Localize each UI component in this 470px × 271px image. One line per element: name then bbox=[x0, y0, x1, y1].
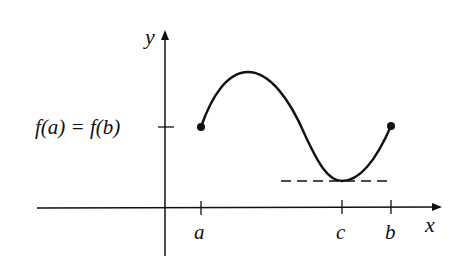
x-axis-label: x bbox=[424, 212, 435, 237]
y-tick-label: f(a) = f(b) bbox=[35, 115, 120, 139]
x-tick-label-c: c bbox=[336, 220, 346, 244]
rolle-theorem-diagram: y x f(a) = f(b) a c b bbox=[0, 0, 470, 271]
function-curve bbox=[201, 72, 391, 181]
x-tick-label-a: a bbox=[194, 220, 205, 244]
endpoint-a-dot bbox=[197, 123, 205, 131]
y-axis-label: y bbox=[143, 24, 155, 49]
x-tick-label-b: b bbox=[385, 220, 396, 244]
x-axis bbox=[37, 207, 440, 208]
endpoint-b-dot bbox=[387, 122, 395, 130]
